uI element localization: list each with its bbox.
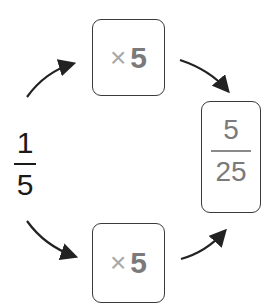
arrow-top-right-icon [180, 60, 227, 90]
top-operation-value: 5 [130, 43, 147, 73]
multiply-icon: × [110, 249, 126, 277]
arrow-bottom-right-icon [181, 232, 224, 259]
result-denominator: 25 [215, 158, 246, 186]
result-fraction: 5 25 [202, 116, 260, 186]
fraction-bar [14, 163, 36, 165]
bottom-operation-value: 5 [130, 248, 147, 278]
start-denominator: 5 [17, 170, 34, 200]
arrow-bottom-left-icon [27, 221, 74, 256]
bottom-operation-box: × 5 [92, 223, 165, 303]
start-fraction: 1 5 [10, 128, 40, 200]
start-numerator: 1 [17, 128, 34, 158]
fraction-bar [211, 150, 251, 152]
top-operation-box: × 5 [92, 19, 165, 96]
result-numerator: 5 [223, 116, 239, 144]
multiply-icon: × [110, 44, 126, 72]
arrow-top-left-icon [27, 64, 72, 97]
result-fraction-box: 5 25 [201, 101, 261, 213]
